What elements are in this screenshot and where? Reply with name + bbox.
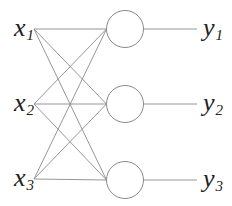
output-label-y2: y2 (200, 88, 224, 118)
output-label-y3: y3 (200, 164, 223, 194)
node-1 (107, 11, 144, 48)
edge-x3-n3 (34, 179, 107, 180)
input-label-x2: x2 (13, 88, 35, 118)
node-3 (107, 162, 144, 199)
output-labels: y1 y2 y3 (200, 13, 224, 194)
input-to-node-edges (34, 29, 107, 180)
output-label-y1: y1 (200, 13, 223, 43)
hidden-nodes (107, 11, 144, 199)
neural-network-diagram: x1 x2 x3 y1 y2 y3 (0, 0, 232, 206)
input-label-x3: x3 (13, 163, 34, 193)
node-2 (107, 86, 144, 123)
node-to-output-edges (144, 29, 198, 180)
input-label-x1: x1 (13, 13, 34, 43)
input-labels: x1 x2 x3 (13, 13, 35, 193)
